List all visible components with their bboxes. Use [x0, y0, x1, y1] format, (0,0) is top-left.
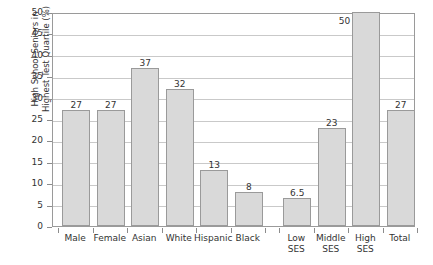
y-axis-tick: 35 [0, 77, 52, 78]
y-axis-tick-mark [47, 227, 52, 228]
y-axis-tick: 25 [0, 120, 52, 121]
y-axis-tick: 0 [0, 227, 52, 228]
y-axis-tick: 5 [0, 206, 52, 207]
y-axis-tick: 20 [0, 141, 52, 142]
bar-value-label: 27 [384, 100, 419, 111]
y-axis-tick-label: 45 [32, 27, 43, 40]
bar-value-label: 8 [232, 182, 267, 193]
y-axis-tick: 45 [0, 34, 52, 35]
bar[interactable] [166, 89, 194, 226]
y-axis-tick-label: 10 [32, 177, 43, 190]
bar-value-label: 6.5 [280, 188, 315, 199]
bar[interactable] [62, 110, 90, 226]
x-axis-label-line: Total [370, 233, 430, 244]
bar-value-label: 27 [94, 100, 129, 111]
bar-chart: High School Seniors in Highest Test Quar… [0, 0, 433, 265]
bar-value-label: 32 [163, 79, 198, 90]
bar[interactable] [200, 170, 228, 226]
x-axis-label-total: Total [370, 233, 430, 244]
y-axis-tick: 50 [0, 13, 52, 14]
y-axis-tick-label: 50 [32, 6, 43, 19]
bar[interactable] [318, 128, 346, 226]
bar-value-label: 23 [315, 118, 350, 129]
y-axis-tick-label: 0 [37, 220, 43, 233]
bar[interactable] [283, 198, 311, 226]
y-axis-tick-label: 5 [37, 199, 43, 212]
y-axis-tick: 10 [0, 184, 52, 185]
y-axis-tick: 15 [0, 163, 52, 164]
y-axis-tick-label: 30 [32, 92, 43, 105]
bar[interactable] [235, 192, 263, 226]
y-axis-tick: 40 [0, 56, 52, 57]
bar-value-label: 50 [330, 16, 350, 27]
y-axis-tick-label: 20 [32, 134, 43, 147]
y-axis-tick-label: 15 [32, 156, 43, 169]
y-axis-tick: 30 [0, 99, 52, 100]
y-axis-tick-label: 25 [32, 113, 43, 126]
bar-value-label: 37 [128, 58, 163, 69]
y-axis-tick-label: 35 [32, 70, 43, 83]
bar[interactable] [387, 110, 415, 226]
plot-area: 272737321386.5235027 [52, 13, 415, 227]
bar[interactable] [352, 12, 380, 226]
bar-value-label: 27 [59, 100, 94, 111]
bar[interactable] [97, 110, 125, 226]
bar[interactable] [131, 68, 159, 226]
y-axis-tick-label: 40 [32, 49, 43, 62]
bar-value-label: 13 [197, 160, 232, 171]
x-axis-label-line: SES [335, 244, 395, 255]
